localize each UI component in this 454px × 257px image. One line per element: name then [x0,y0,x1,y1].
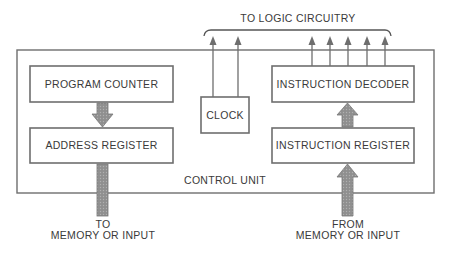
from-memory-label-line2: MEMORY OR INPUT [288,229,408,241]
to-memory-label-line2: MEMORY OR INPUT [43,229,163,241]
instruction-register-label: INSTRUCTION REGISTER [272,139,414,151]
clock-output-arrows [210,36,242,97]
logic-bracket [204,30,391,36]
clock-label: CLOCK [201,109,249,121]
instruction-decoder-label: INSTRUCTION DECODER [272,78,414,90]
pc-to-ar-arrow [92,103,113,127]
control-unit-label: CONTROL UNIT [170,174,280,186]
decoder-output-arrows [309,36,389,66]
address-register-label: ADDRESS REGISTER [30,139,173,151]
instruction-bus-in [337,164,358,216]
program-counter-label: PROGRAM COUNTER [30,78,173,90]
top-label: TO LOGIC CIRCUITRY [238,12,358,24]
address-bus-out [97,164,108,216]
ir-to-id-arrow [337,103,358,127]
